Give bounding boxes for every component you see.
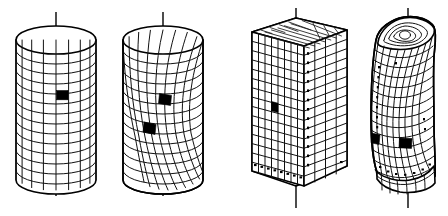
figure-canvas <box>0 0 448 216</box>
mesh-diagram-svg <box>0 0 448 216</box>
object-block-undeformed <box>252 8 347 208</box>
object-cylinder-undeformed <box>16 12 96 196</box>
highlighted-element-right <box>399 138 412 148</box>
object-block-twisted <box>371 8 436 208</box>
highlighted-element-lower <box>143 122 156 135</box>
highlighted-element <box>272 102 279 113</box>
highlighted-element-upper <box>159 94 172 106</box>
highlighted-element <box>57 91 68 100</box>
highlighted-element-left <box>371 133 380 145</box>
object-cylinder-twisted <box>123 12 203 196</box>
